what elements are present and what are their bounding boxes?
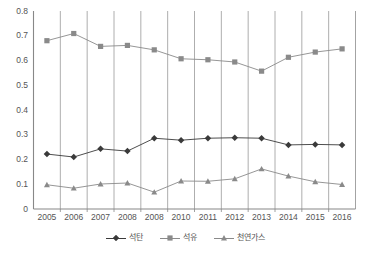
y-tick-label: 0.4: [2, 106, 28, 115]
data-point: [339, 142, 346, 149]
x-tick-label: 2007: [88, 213, 114, 222]
y-tick-label: 0.2: [2, 155, 28, 164]
data-point: [152, 47, 157, 52]
legend-item-1[interactable]: 석탄: [106, 234, 143, 242]
data-point: [98, 44, 103, 49]
x-tick-label: 2015: [302, 213, 328, 222]
data-point: [125, 43, 130, 48]
legend-item-3[interactable]: 천연가스: [214, 234, 265, 242]
data-point: [97, 146, 104, 153]
y-tick-label: 0.3: [2, 130, 28, 139]
x-tick-label: 2016: [329, 213, 355, 222]
legend-label: 석유: [183, 234, 197, 242]
x-tick-label: 2005: [34, 213, 60, 222]
data-point: [232, 59, 237, 64]
data-point: [312, 141, 319, 148]
legend-label: 석탄: [129, 234, 143, 242]
y-tick-label: 0.1: [2, 180, 28, 189]
data-point: [339, 46, 344, 51]
x-tick-label: 2013: [249, 213, 275, 222]
line-chart: 0.80.70.60.50.40.30.20.10 20052006200720…: [0, 0, 371, 256]
y-tick-label: 0.5: [2, 81, 28, 90]
data-point: [71, 31, 76, 36]
x-tick-label: 2010: [168, 213, 194, 222]
legend-marker-icon: [160, 234, 180, 242]
data-point: [151, 135, 158, 142]
x-tick-label: 2008: [114, 213, 140, 222]
data-point: [285, 142, 292, 149]
legend-label: 천연가스: [237, 234, 265, 242]
data-point: [205, 135, 212, 142]
data-point: [178, 56, 183, 61]
legend-item-2[interactable]: 석유: [160, 234, 197, 242]
data-point: [286, 55, 291, 60]
x-tick-label: 2014: [275, 213, 301, 222]
data-point: [44, 38, 49, 43]
data-point: [71, 154, 78, 161]
y-tick-label: 0.7: [2, 31, 28, 40]
y-tick-label: 0.6: [2, 56, 28, 65]
x-tick-label: 2011: [195, 213, 221, 222]
data-point: [44, 182, 50, 187]
data-point: [44, 151, 51, 158]
data-point: [124, 148, 131, 155]
data-point: [178, 137, 185, 144]
data-point: [259, 69, 264, 74]
x-tick-label: 2012: [222, 213, 248, 222]
legend-marker-icon: [214, 234, 234, 242]
data-point: [258, 135, 265, 142]
x-tick-label: 2008: [141, 213, 167, 222]
x-tick-label: 2006: [61, 213, 87, 222]
y-tick-label: 0: [2, 205, 28, 214]
y-tick-label: 0.8: [2, 7, 28, 16]
chart-legend: 석탄석유천연가스: [0, 234, 371, 242]
data-point: [259, 166, 265, 171]
data-point: [313, 49, 318, 54]
data-point: [205, 57, 210, 62]
legend-marker-icon: [106, 234, 126, 242]
data-point: [232, 134, 239, 141]
